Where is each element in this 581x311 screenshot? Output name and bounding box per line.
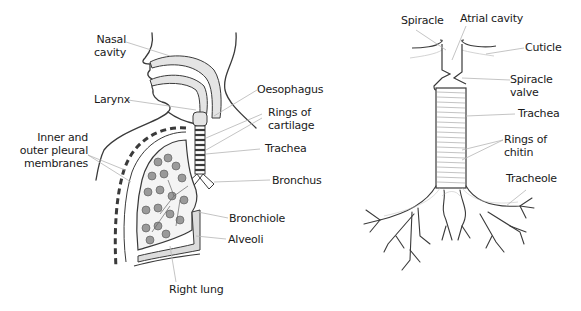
label-bronchus: Bronchus <box>272 174 322 187</box>
label-bronchiole: Bronchiole <box>229 212 285 225</box>
label-oesophagus: Oesophagus <box>257 83 323 96</box>
label-trachea-human: Trachea <box>265 142 307 155</box>
label-rings-of-cartilage: Rings of cartilage <box>268 106 314 132</box>
label-pleural-membranes: Inner and outer pleural membranes <box>4 131 88 170</box>
larynx-shape <box>193 112 207 126</box>
label-line: valve <box>510 86 553 99</box>
label-spiracle-valve: Spiracle valve <box>510 73 553 99</box>
label-rings-of-chitin: Rings of chitin <box>504 133 547 159</box>
label-larynx: Larynx <box>94 93 130 106</box>
label-alveoli: Alveoli <box>228 233 263 246</box>
label-right-lung: Right lung <box>169 283 223 296</box>
label-line: cartilage <box>268 119 314 132</box>
label-spiracle: Spiracle <box>401 14 444 27</box>
label-line: membranes <box>4 157 88 170</box>
label-line: chitin <box>504 146 547 159</box>
label-nasal-cavity: Nasal cavity <box>80 33 126 59</box>
label-line: outer pleural <box>4 144 88 157</box>
label-line: Nasal <box>80 33 126 46</box>
trachea-rings <box>195 126 205 174</box>
neck-back <box>225 33 256 128</box>
label-line: Rings of <box>504 133 547 146</box>
label-tracheole: Tracheole <box>506 172 557 185</box>
cuticle <box>412 40 496 48</box>
label-line: Rings of <box>268 106 314 119</box>
label-line: Inner and <box>4 131 88 144</box>
label-line: Spiracle <box>510 73 553 86</box>
label-line: cavity <box>80 46 126 59</box>
atrial-cavity <box>434 44 466 90</box>
label-atrial-cavity: Atrial cavity <box>460 12 523 25</box>
label-cuticle: Cuticle <box>525 41 562 54</box>
label-trachea-insect: Trachea <box>518 107 560 120</box>
tracheoles <box>364 186 534 270</box>
